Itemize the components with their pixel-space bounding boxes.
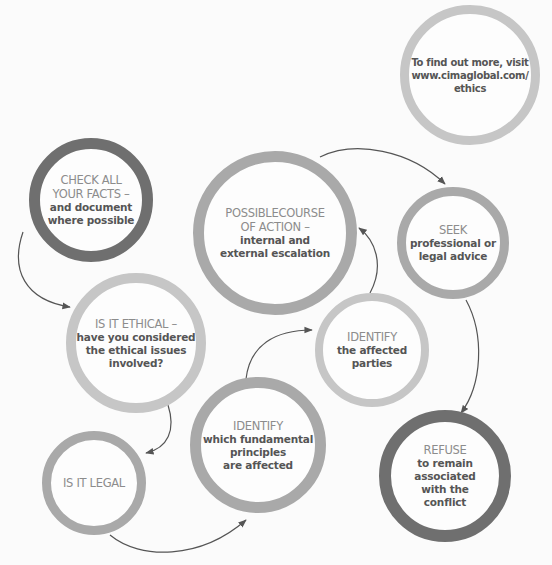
node-identify-principles-body: which fundamental principles are affecte… <box>203 433 313 472</box>
node-more-info-text: To find out more, visit www.cimaglobal.c… <box>411 56 528 95</box>
arrow-legal-to-principles <box>110 520 246 552</box>
node-is-it-ethical-body: have you considered the ethical issues i… <box>77 331 196 370</box>
cimaglobal-link[interactable]: www.cimaglobal.com/ <box>411 69 528 82</box>
node-refuse-heading: REFUSE <box>423 443 466 457</box>
arrow-course-to-seek <box>320 149 445 184</box>
arrow-ethical-to-legal <box>146 405 171 453</box>
node-is-it-legal-heading: IS IT LEGAL <box>63 476 125 490</box>
node-is-it-ethical-heading: IS IT ETHICAL – <box>95 317 177 331</box>
ethics-flow-diagram: To find out more, visit www.cimaglobal.c… <box>0 0 552 565</box>
node-check-facts: CHECK ALL YOUR FACTS – and document wher… <box>29 138 153 262</box>
node-check-facts-heading: CHECK ALL YOUR FACTS – <box>53 173 130 201</box>
node-is-it-legal: IS IT LEGAL <box>42 431 146 535</box>
node-identify-parties: IDENTIFY the affected parties <box>315 293 429 407</box>
node-possible-course-heading: POSSIBLECOURSE OF ACTION – <box>225 206 324 234</box>
node-seek-advice-heading: SEEK <box>439 223 467 237</box>
node-possible-course: POSSIBLECOURSE OF ACTION – internal and … <box>193 151 357 315</box>
node-identify-principles-heading: IDENTIFY <box>233 419 283 433</box>
node-check-facts-body: and document where possible <box>48 201 135 227</box>
node-refuse-body: to remain associated with the conflict <box>414 457 475 509</box>
arrow-parties-to-course <box>359 228 377 293</box>
node-possible-course-body: internal and external escalation <box>220 234 330 260</box>
arrow-principles-to-parties <box>246 330 312 379</box>
node-seek-advice: SEEK professional or legal advice <box>397 187 509 299</box>
node-seek-advice-body: professional or legal advice <box>410 237 496 263</box>
node-more-info: To find out more, visit www.cimaglobal.c… <box>400 5 540 145</box>
node-identify-parties-body: the affected parties <box>337 344 407 370</box>
node-identify-parties-heading: IDENTIFY <box>347 330 397 344</box>
arrow-seek-to-refuse <box>461 300 479 413</box>
node-identify-principles: IDENTIFY which fundamental principles ar… <box>190 377 326 513</box>
node-is-it-ethical: IS IT ETHICAL – have you considered the … <box>66 273 206 413</box>
node-refuse: REFUSE to remain associated with the con… <box>379 410 511 542</box>
